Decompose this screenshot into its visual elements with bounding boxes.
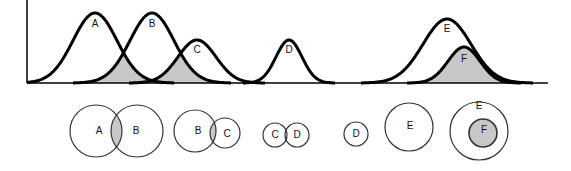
distribution-overlap-diagram: ABCDEF ABBCCDDEEF [0,0,571,171]
venn-label-f: F [481,124,487,135]
venn-cd: CD [263,123,309,147]
venn-ab: AB [70,105,163,157]
venn-diagrams-panel: ABBCCDDEEF [70,100,508,160]
curve-label-c: C [193,44,200,55]
venn-d: D [344,122,368,146]
venn-ef: EF [450,100,508,160]
venn-bc: BC [174,110,240,152]
venn-label-b: B [133,125,140,136]
venn-label-c: C [223,128,230,139]
venn-label-a: A [96,125,103,136]
venn-e: E [385,103,433,151]
curve-label-e: E [444,23,451,34]
curve-label-b: B [149,18,156,29]
curve-label-a: A [92,18,99,29]
curve-labels: ABCDEF [92,18,467,64]
venn-label-d: D [293,129,300,140]
venn-label-d: D [352,128,359,139]
curve-label-d: D [285,44,292,55]
venn-label-e: E [476,100,483,111]
venn-label-c: C [271,129,278,140]
curve-label-f: F [461,53,467,64]
venn-label-b: B [195,125,202,136]
bell-curves-panel: ABCDEF [27,0,548,83]
venn-label-e: E [407,120,414,131]
